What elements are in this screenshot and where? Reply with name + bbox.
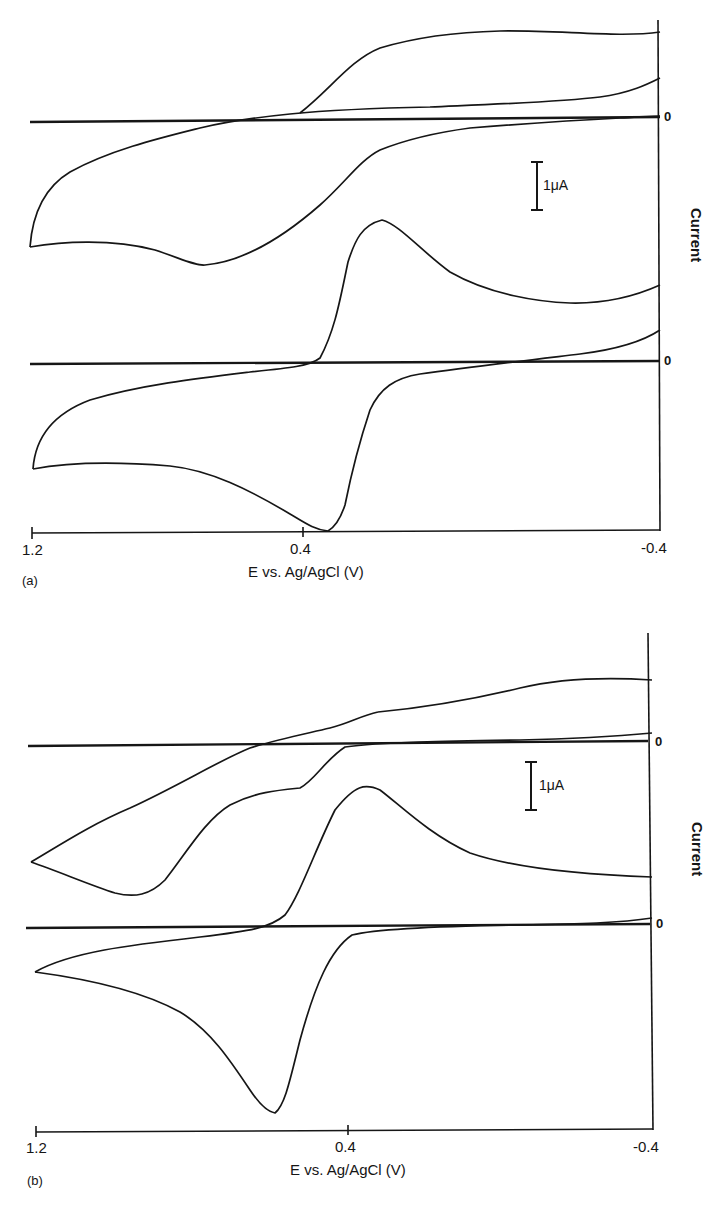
panel-b-curve-4 xyxy=(35,918,652,1113)
panel-b-x-axis-title: E vs. Ag/AgCl (V) xyxy=(290,1161,406,1178)
panel-a-y-axis-title: Current xyxy=(688,208,705,262)
voltammogram-plots xyxy=(0,0,728,1217)
panel-b-x-tick-0.4: 0.4 xyxy=(335,1138,356,1155)
panel-b-y-axis xyxy=(648,633,653,1130)
panel-a-x-tick-0.4: 0.4 xyxy=(290,540,311,557)
panel-a-curve-0 xyxy=(30,78,660,247)
panel-a-curve-3 xyxy=(33,220,660,469)
panel-a-voltammogram-curves xyxy=(30,31,660,531)
panel-b-y-axis-title: Current xyxy=(689,822,706,876)
figure: 0 0 1μA Current 1.2 0.4 -0.4 E vs. Ag/Ag… xyxy=(0,0,728,1217)
panel-a-scale-bar-label: 1μA xyxy=(543,177,568,193)
panel-b-curve-3 xyxy=(35,787,652,972)
panel-a-tag: (a) xyxy=(22,573,38,588)
panel-b-x-axis xyxy=(36,1129,653,1132)
panel-b-scale-bar xyxy=(525,762,537,810)
panel-a-baseline-lower xyxy=(30,361,660,364)
panel-a-x-tick-1.2: 1.2 xyxy=(22,541,43,558)
panel-b-plot xyxy=(26,633,653,1137)
panel-b-zero-label-lower: 0 xyxy=(656,916,663,931)
panel-a-x-axis-title: E vs. Ag/AgCl (V) xyxy=(248,563,364,580)
panel-a-x-axis xyxy=(32,530,660,533)
panel-a-y-axis xyxy=(658,20,660,531)
panel-b-tag: (b) xyxy=(27,1173,43,1188)
panel-a-curve-2 xyxy=(300,31,660,113)
panel-a-plot xyxy=(30,20,660,539)
panel-b-zero-label-upper: 0 xyxy=(655,734,662,749)
panel-a-zero-label-upper: 0 xyxy=(664,109,671,124)
panel-b-curve-1 xyxy=(378,678,652,712)
panel-b-x-tick-neg0.4: -0.4 xyxy=(633,1138,659,1155)
panel-a-zero-label-lower: 0 xyxy=(664,353,671,368)
panel-a-x-tick-neg0.4: -0.4 xyxy=(641,539,667,556)
panel-b-scale-bar-label: 1μA xyxy=(539,777,564,793)
panel-a-scale-bar xyxy=(531,162,543,210)
panel-a-curve-4 xyxy=(33,330,660,531)
panel-b-curve-0 xyxy=(31,712,378,862)
panel-b-baseline-upper xyxy=(28,741,648,746)
panel-b-x-tick-1.2: 1.2 xyxy=(26,1139,47,1156)
